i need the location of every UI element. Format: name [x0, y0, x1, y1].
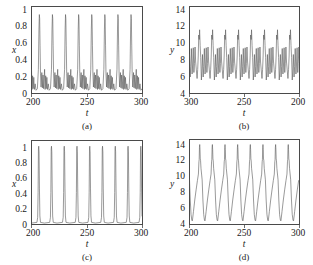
- panel-c-xtick-1: 250: [80, 228, 95, 238]
- panel-d-plot: 14 12 10 8 6 4 y 200 250 300 t: [156, 132, 313, 265]
- panel-d-ytick-1: 6: [180, 203, 185, 213]
- panel-b: 14 12 10 8 6 4 y 300 250 200 t: [156, 0, 313, 133]
- panel-d-ylabel: y: [169, 179, 175, 189]
- panel-a-curve: [32, 15, 143, 91]
- panel-c: 1 0.8 0.6 0.4 0.2 0 x 200 250 300: [0, 132, 157, 265]
- panel-d-ytick-2: 8: [180, 187, 185, 197]
- panel-a: 1 0.8 0.6 0.4 0.2 0 x 200 250 300: [0, 0, 157, 133]
- panel-c-xticklabels: 200 250 300: [26, 228, 149, 238]
- panel-c-xlabel: t: [86, 239, 89, 249]
- panel-d-yticklabels: 14 12 10 8 6 4: [176, 140, 186, 229]
- panel-d-xtick-1: 250: [237, 228, 252, 238]
- panel-d-curve: [190, 145, 299, 221]
- panel-b-xtick-0: 300: [184, 97, 199, 107]
- panel-d-ytick-4: 12: [176, 155, 186, 165]
- panel-a-xtick-2: 300: [134, 97, 149, 107]
- panel-d: 14 12 10 8 6 4 y 200 250 300 t: [156, 132, 313, 265]
- panel-a-ytick-4: 0.8: [15, 21, 27, 31]
- panel-b-ytick-4: 12: [176, 21, 186, 31]
- panel-b-ytick-2: 8: [180, 55, 185, 65]
- panel-a-yticklabels: 1 0.8 0.6 0.4 0.2 0: [15, 5, 27, 99]
- panel-a-curve-group: [32, 15, 143, 91]
- panel-b-xticklabels: 300 250 200: [184, 97, 306, 107]
- panel-b-ytick-1: 6: [180, 72, 185, 82]
- panel-a-xtick-0: 200: [26, 97, 41, 107]
- panel-c-curve-group: [32, 146, 143, 223]
- panel-c-label: (c): [82, 252, 92, 262]
- panel-a-xtick-1: 250: [80, 97, 95, 107]
- panel-a-ytick-2: 0.4: [15, 55, 27, 65]
- panel-c-ytick-4: 0.8: [15, 158, 27, 168]
- panel-c-plot: 1 0.8 0.6 0.4 0.2 0 x 200 250 300: [0, 132, 157, 265]
- panel-b-xtick-2: 200: [291, 97, 306, 107]
- panel-b-label: (b): [239, 121, 250, 131]
- panel-c-yticklabels: 1 0.8 0.6 0.4 0.2 0: [15, 143, 27, 230]
- panel-c-xtick-0: 200: [26, 228, 41, 238]
- panel-b-ylabel: y: [169, 45, 175, 55]
- panel-c-ytick-2: 0.4: [15, 189, 27, 199]
- panel-a-ytick-1: 0.2: [15, 72, 27, 82]
- figure-four-panel-timeseries: 1 0.8 0.6 0.4 0.2 0 x 200 250 300: [0, 0, 313, 265]
- panel-a-ylabel: x: [11, 45, 17, 55]
- panel-a-plot: 1 0.8 0.6 0.4 0.2 0 x 200 250 300: [0, 0, 157, 133]
- panel-d-xtick-0: 200: [184, 228, 199, 238]
- panel-a-xticklabels: 200 250 300: [26, 97, 149, 107]
- panel-c-ytick-3: 0.6: [15, 173, 27, 183]
- panel-c-xtick-2: 300: [134, 228, 149, 238]
- panel-d-ytick-5: 14: [176, 140, 186, 150]
- panel-b-yticklabels: 14 12 10 8 6 4: [176, 5, 186, 99]
- panel-b-ytick-5: 14: [176, 5, 186, 15]
- panel-d-label: (d): [239, 252, 250, 262]
- panel-a-label: (a): [82, 121, 92, 131]
- panel-d-xlabel: t: [243, 239, 246, 249]
- panel-d-ytick-3: 10: [176, 171, 186, 181]
- panel-a-ytick-3: 0.6: [15, 38, 27, 48]
- panel-c-ylabel: x: [11, 179, 17, 189]
- panel-b-xlabel: t: [243, 108, 246, 118]
- panel-a-xlabel: t: [86, 108, 89, 118]
- panel-c-ytick-5: 1: [22, 143, 27, 153]
- panel-b-curve-group: [190, 30, 300, 80]
- panel-d-curve-group: [190, 145, 299, 221]
- panel-b-ytick-3: 10: [176, 38, 186, 48]
- panel-a-ytick-5: 1: [22, 5, 27, 15]
- panel-c-ytick-1: 0.2: [15, 204, 27, 214]
- panel-c-frame: [32, 141, 143, 225]
- panel-b-curve: [190, 30, 300, 80]
- panel-b-plot: 14 12 10 8 6 4 y 300 250 200 t: [156, 0, 313, 133]
- panel-d-xticklabels: 200 250 300: [184, 228, 306, 238]
- panel-c-curve: [32, 146, 143, 223]
- panel-d-xtick-2: 300: [291, 228, 306, 238]
- panel-b-xtick-1: 250: [237, 97, 252, 107]
